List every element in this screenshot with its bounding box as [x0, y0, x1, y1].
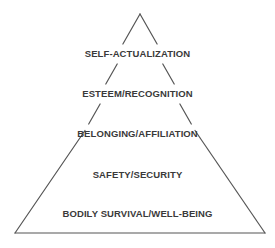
level-belonging-affiliation: BELONGING/AFFILIATION [0, 128, 275, 140]
pyramid-right-edge [140, 14, 157, 44]
pyramid-left-edge [123, 14, 140, 44]
level-bodily-survival: BODILY SURVIVAL/WELL-BEING [0, 208, 275, 220]
level-safety-security: SAFETY/SECURITY [0, 169, 275, 181]
level-esteem-recognition: ESTEEM/RECOGNITION [0, 88, 275, 100]
level-self-actualization: SELF-ACTUALIZATION [0, 48, 275, 60]
